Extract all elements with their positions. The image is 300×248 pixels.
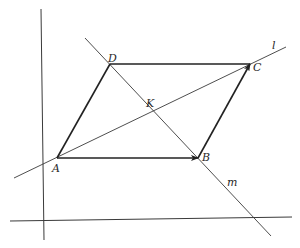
point-label-D: D	[107, 52, 117, 65]
point-label-A: A	[51, 162, 60, 175]
vertical-axis	[41, 9, 44, 240]
vector-BC	[198, 64, 250, 158]
geometry-diagram: A B C D K l m	[0, 0, 300, 248]
point-label-B: B	[201, 151, 210, 164]
point-label-C: C	[253, 61, 262, 74]
horizontal-axis	[10, 217, 292, 221]
line-label-m: m	[227, 176, 237, 189]
line-label-l: l	[272, 39, 276, 52]
point-label-K: K	[145, 97, 155, 110]
segment-AD	[57, 64, 110, 158]
